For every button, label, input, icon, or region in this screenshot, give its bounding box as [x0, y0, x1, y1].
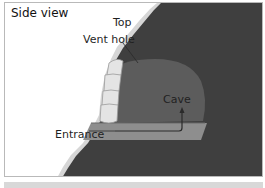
diagram-title: Side view	[11, 7, 68, 19]
label-top: Top	[113, 17, 132, 28]
snow-cave-illustration	[5, 3, 263, 177]
label-cave: Cave	[163, 94, 191, 105]
label-vent-hole: Vent hole	[83, 34, 135, 45]
label-entrance: Entrance	[55, 129, 104, 140]
diagram-frame: Side view Top Vent hole Cave Entrance	[4, 2, 263, 177]
bottom-divider	[4, 182, 263, 188]
